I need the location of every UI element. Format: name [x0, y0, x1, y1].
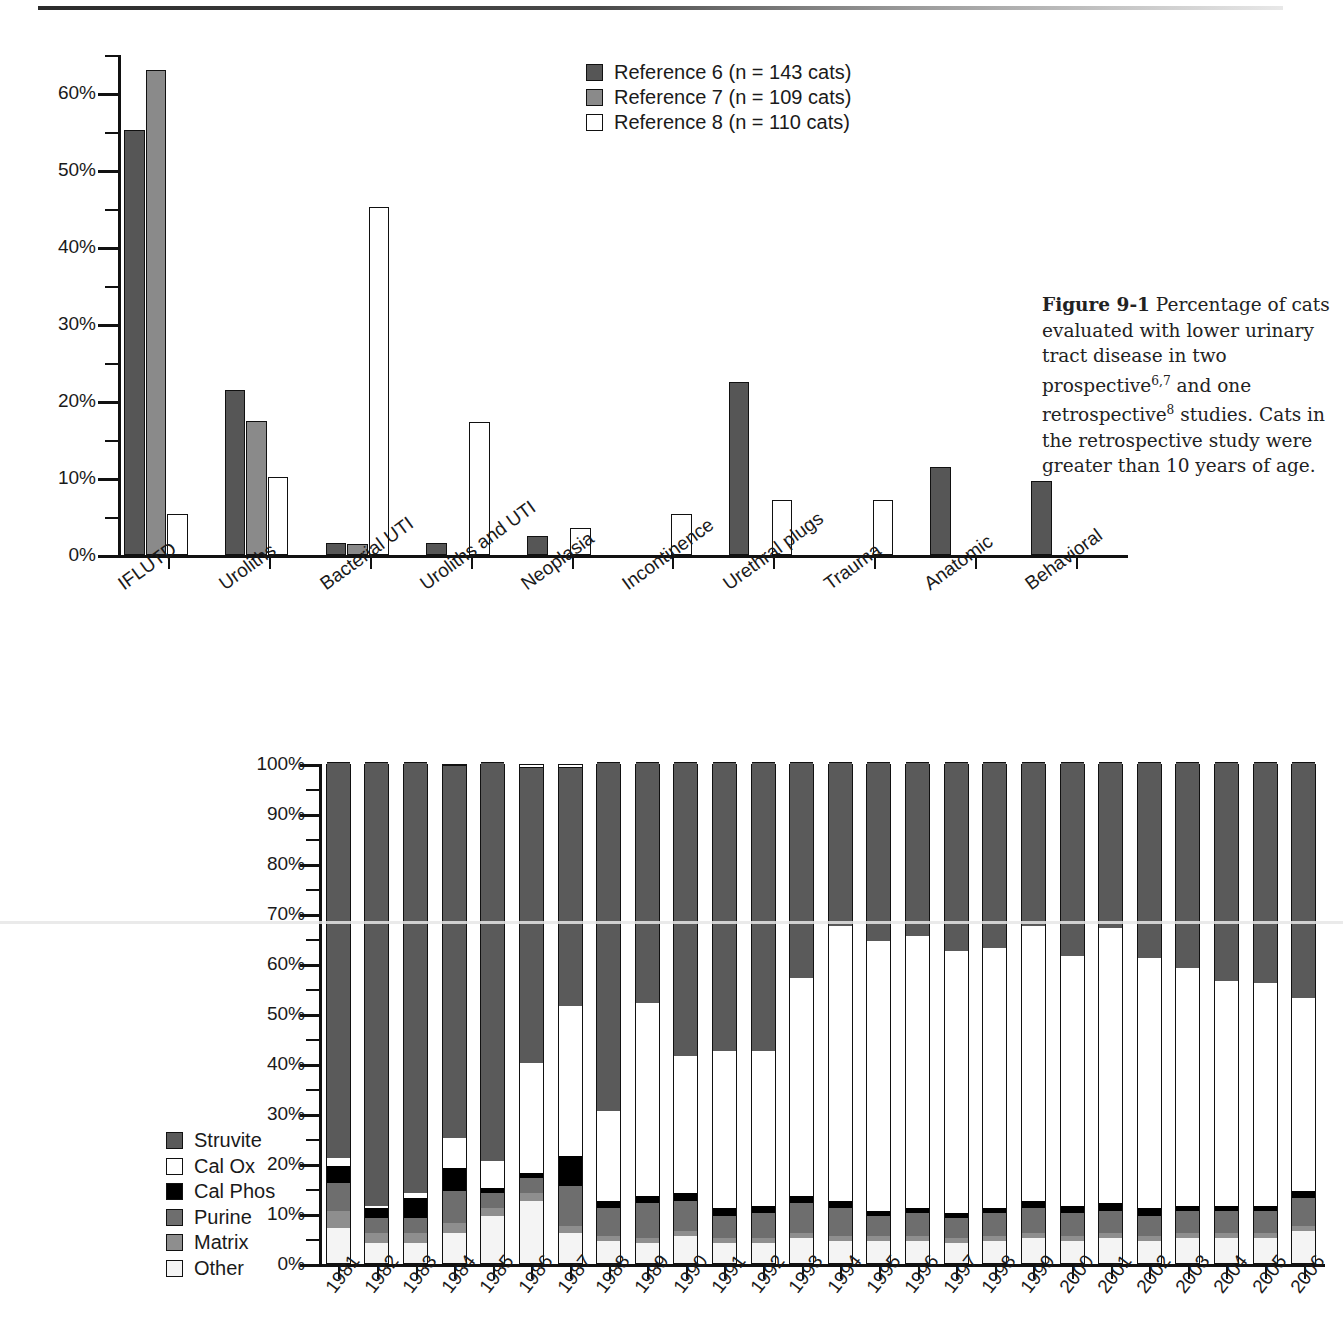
- stack-segment: [636, 1195, 659, 1204]
- stack-segment: [597, 1207, 620, 1236]
- y-axis-minor-tick: [306, 1089, 319, 1091]
- stack-segment: [983, 762, 1006, 948]
- stack-segment: [1254, 982, 1277, 1206]
- y-axis-tick-label: 30%: [36, 313, 96, 335]
- stack-segment: [867, 1215, 890, 1236]
- stacked-bar: [944, 764, 969, 1264]
- stack-segment: [1215, 980, 1238, 1206]
- y-axis-major-tick: [300, 1014, 319, 1017]
- stack-segment: [520, 1062, 543, 1173]
- y-axis-tick-label: 40%: [36, 236, 96, 258]
- legend-item: Reference 6 (n = 143 cats): [586, 60, 851, 85]
- y-axis-minor-tick: [306, 839, 319, 841]
- stacked-bar: [442, 764, 467, 1264]
- stacked-bar: [596, 764, 621, 1264]
- y-axis-major-tick: [300, 1064, 319, 1067]
- stack-segment: [1292, 762, 1315, 998]
- stack-segment: [520, 1192, 543, 1201]
- legend-item: Reference 7 (n = 109 cats): [586, 85, 851, 110]
- y-axis-tick-label: 10%: [36, 467, 96, 489]
- stack-segment: [674, 1200, 697, 1231]
- stacked-bar: [1253, 764, 1278, 1264]
- y-axis-minor-tick: [306, 1139, 319, 1141]
- legend-item: Matrix: [166, 1230, 275, 1256]
- stack-segment: [481, 762, 504, 1161]
- stack-segment: [829, 762, 852, 926]
- stack-segment: [1061, 955, 1084, 1206]
- y-axis-minor-tick: [306, 1239, 319, 1241]
- stack-segment: [559, 1005, 582, 1156]
- y-axis-major-tick: [300, 814, 319, 817]
- y-axis-tick-label: 70%: [227, 903, 305, 925]
- stack-segment: [597, 762, 620, 1111]
- y-axis-minor-tick: [105, 286, 118, 288]
- y-axis-major-tick: [98, 93, 118, 96]
- bar: [124, 130, 145, 555]
- y-axis-tick-label: 0%: [36, 544, 96, 566]
- stack-segment: [1176, 1210, 1199, 1234]
- legend-swatch-icon: [166, 1209, 183, 1226]
- stack-segment: [945, 950, 968, 1214]
- stack-segment: [1099, 1202, 1122, 1211]
- legend-swatch-icon: [166, 1234, 183, 1251]
- stack-segment: [1138, 1215, 1161, 1236]
- legend-item: Cal Ox: [166, 1154, 275, 1180]
- stack-segment: [520, 767, 543, 1063]
- y-axis-major-tick: [98, 247, 118, 250]
- y-axis-major-tick: [98, 170, 118, 173]
- y-axis-major-tick: [98, 555, 118, 558]
- bar: [930, 467, 951, 555]
- y-axis-major-tick: [300, 1214, 319, 1217]
- figure-caption-superscript-1: 6,7: [1151, 374, 1170, 388]
- stack-segment: [443, 1167, 466, 1191]
- legend-swatch-icon: [586, 89, 603, 106]
- stacked-bar: [364, 764, 389, 1264]
- stacked-bar: [1021, 764, 1046, 1264]
- stacked-bar: [751, 764, 776, 1264]
- stacked-bar: [712, 764, 737, 1264]
- legend-swatch-icon: [166, 1158, 183, 1175]
- bar: [246, 421, 267, 555]
- legend-label: Reference 8 (n = 110 cats): [614, 111, 850, 134]
- stack-segment: [1215, 1210, 1238, 1234]
- legend-swatch-icon: [166, 1260, 183, 1277]
- stack-segment: [1254, 762, 1277, 983]
- stacked-bar: [558, 764, 583, 1264]
- legend-swatch-icon: [166, 1132, 183, 1149]
- bar: [729, 382, 750, 555]
- stack-segment: [674, 1055, 697, 1194]
- stacked-bar: [789, 764, 814, 1264]
- figure-caption: Figure 9-1 Percentage of cats evaluated …: [1042, 292, 1334, 479]
- stack-segment: [1099, 927, 1122, 1203]
- figure-2-chart: 0%10%20%30%40%50%60%70%80%90%100% 198119…: [0, 700, 1343, 1334]
- stacked-bar: [519, 764, 544, 1264]
- stack-segment: [1061, 762, 1084, 956]
- y-axis-minor-tick: [306, 889, 319, 891]
- legend-label: Struvite: [194, 1129, 262, 1152]
- y-axis-tick-label: 90%: [227, 803, 305, 825]
- stack-segment: [945, 762, 968, 951]
- legend-label: Other: [194, 1257, 244, 1280]
- stack-segment: [1061, 1212, 1084, 1236]
- stack-segment: [867, 940, 890, 1211]
- stack-segment: [790, 1202, 813, 1233]
- stack-segment: [365, 1207, 388, 1218]
- stack-segment: [829, 1200, 852, 1209]
- y-axis-major-tick: [300, 1114, 319, 1117]
- stacked-bar: [673, 764, 698, 1264]
- stack-segment: [327, 1165, 350, 1184]
- y-axis-minor-tick: [105, 209, 118, 211]
- y-axis-minor-tick: [105, 440, 118, 442]
- y-axis-minor-tick: [105, 363, 118, 365]
- stack-segment: [790, 762, 813, 978]
- stack-segment: [636, 1002, 659, 1196]
- stack-segment: [790, 977, 813, 1196]
- figure-caption-label: Figure 9-1: [1042, 294, 1150, 315]
- figure-1-legend: Reference 6 (n = 143 cats) Reference 7 (…: [586, 60, 851, 135]
- stacked-bar: [1175, 764, 1200, 1264]
- y-axis-major-tick: [300, 864, 319, 867]
- stack-segment: [1099, 762, 1122, 928]
- bar: [326, 543, 347, 555]
- stack-segment: [829, 925, 852, 1201]
- stack-segment: [1215, 762, 1238, 981]
